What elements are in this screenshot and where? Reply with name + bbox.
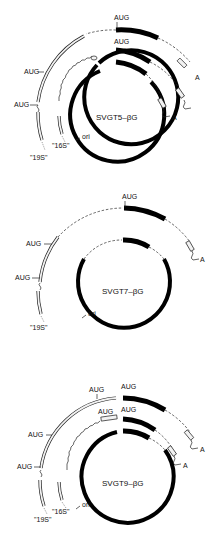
- intron-inner-left: [84, 240, 122, 259]
- intron-inner: [149, 438, 165, 450]
- aug-label-left-1: AUG: [28, 431, 43, 438]
- exon-inner: [116, 62, 146, 74]
- aug-label-left-1: AUG: [24, 68, 39, 75]
- aug-label-left-2: AUG: [17, 463, 32, 470]
- poly-a-label: A: [200, 256, 205, 263]
- polya-tail: [191, 251, 199, 260]
- label-19s: "19S": [30, 154, 48, 161]
- ori-label: ori: [82, 133, 90, 140]
- exon-box-outer: [177, 58, 187, 68]
- label-16s: "16S": [52, 142, 70, 149]
- aug-label-top-2: AUG: [114, 38, 129, 45]
- splice-junction: [40, 470, 42, 477]
- plasmid-diagram-figure: A A AUG AUG "19S" "16S" AUG AUG: [0, 0, 222, 542]
- exon-outer: [124, 208, 165, 219]
- intron-middle: [155, 430, 172, 448]
- poly-a-label-1: A: [195, 74, 200, 81]
- dotted-extension-19s: [41, 316, 44, 322]
- aug-label-left-2: AUG: [14, 101, 29, 108]
- dotted-extension-19s: [44, 508, 47, 514]
- label-19s: "19S": [30, 324, 48, 331]
- 16s-small-exon: [91, 56, 97, 60]
- polya-tail-2: [173, 456, 181, 465]
- plasmid-ring: [82, 432, 174, 523]
- dotted-extension-19s: [42, 142, 45, 150]
- aug-label-top-1b: AUG: [89, 386, 104, 393]
- poly-a-label-1: A: [200, 446, 205, 453]
- intron-inner-right: [149, 247, 164, 259]
- plasmid-title: SVGT9–βG: [102, 479, 144, 488]
- 16s-small-exon: [101, 415, 117, 421]
- ori-tick: [76, 506, 80, 509]
- polya-tail-1: [190, 440, 198, 449]
- exon-box-outer: [186, 241, 194, 252]
- exon-inner: [123, 240, 149, 247]
- aug-label-top-1: AUG: [121, 383, 136, 390]
- diagram-svgt5: A A AUG AUG "19S" "16S" AUG AUG: [14, 14, 200, 162]
- exon-middle: [123, 419, 155, 430]
- label-19s: "19S": [34, 516, 52, 523]
- poly-a-label-2: A: [183, 462, 188, 469]
- aug-label-top-1: AUG: [114, 14, 129, 21]
- exon-outer: [116, 30, 158, 38]
- aug-label-left-1: AUG: [26, 240, 41, 247]
- aug-label-top-2b: AUG: [98, 408, 113, 415]
- ori-label: ori: [82, 501, 90, 508]
- diagram-svgt9: A A AUG AUG AUG AUG "19S" "16S" AUG AUG …: [17, 383, 205, 523]
- label-16s: "16S": [52, 508, 70, 515]
- aug-label-top: AUG: [122, 193, 137, 200]
- diagram-svgt7: A AUG "19S" AUG AUG ori SVGT7–βG: [15, 193, 205, 331]
- intron-outer-right: [165, 219, 190, 242]
- intron-outer-left: [58, 208, 123, 237]
- polya-tail-1: [183, 100, 191, 109]
- aug-label-left-2: AUG: [15, 274, 30, 281]
- splice-junction: [39, 283, 41, 290]
- exon-inner: [123, 431, 149, 438]
- splice-junction: [37, 105, 39, 112]
- aug-label-top-2: AUG: [121, 406, 136, 413]
- plasmid-title: SVGT5–βG: [96, 113, 138, 122]
- intron-outer-right: [158, 38, 190, 62]
- intron-outer-right: [165, 410, 190, 432]
- intron-outer-left: [86, 30, 116, 34]
- ori-tick: [82, 315, 86, 318]
- ori-label: ori: [88, 310, 96, 317]
- plasmid-title: SVGT7–βG: [102, 287, 144, 296]
- poly-a-label-2: A: [172, 114, 177, 121]
- exon-box-outer: [184, 430, 193, 440]
